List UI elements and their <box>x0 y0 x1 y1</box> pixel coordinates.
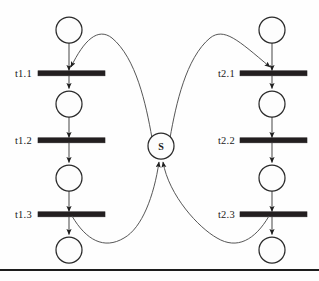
place-p2-2 <box>259 165 285 191</box>
shared-place-label: S <box>158 141 164 152</box>
place-p1-0 <box>56 17 82 43</box>
place-p1-3 <box>56 237 82 263</box>
transition-label-t2-3: t2.3 <box>218 209 235 220</box>
transition-label-t2-1: t2.1 <box>218 68 235 79</box>
transition-t2-3 <box>240 212 307 217</box>
shared-place-group: S <box>148 133 174 159</box>
transition-t1-3 <box>38 212 105 217</box>
transition-t2-2 <box>240 138 307 143</box>
arc-t1-3-to-shared <box>72 162 159 243</box>
transition-label-t1-1: t1.1 <box>15 68 32 79</box>
transition-t1-2 <box>38 138 105 143</box>
petri-net-canvas: t1.1 t1.2 t1.3 t2.1 t2.2 t2.3 <box>0 0 319 281</box>
transition-label-t2-2: t2.2 <box>218 135 235 146</box>
place-p1-1 <box>56 91 82 117</box>
transition-t2-1 <box>240 71 307 76</box>
arc-shared-to-t1-1 <box>71 34 152 138</box>
transition-label-t1-3: t1.3 <box>15 209 32 220</box>
transition-label-t1-2: t1.2 <box>15 135 32 146</box>
place-p2-0 <box>259 17 285 43</box>
petri-net-figure: t1.1 t1.2 t1.3 t2.1 t2.2 t2.3 <box>0 0 319 281</box>
arc-shared-to-t2-1 <box>170 34 270 138</box>
place-p1-2 <box>56 165 82 191</box>
chain-1-group: t1.1 t1.2 t1.3 <box>15 17 105 263</box>
transition-t1-1 <box>38 71 105 76</box>
place-p2-3 <box>259 237 285 263</box>
place-p2-1 <box>259 91 285 117</box>
arc-t2-3-to-shared <box>163 162 269 243</box>
